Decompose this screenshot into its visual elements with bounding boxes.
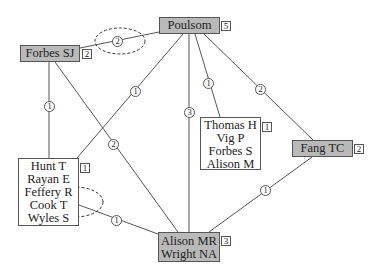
edge-weight-poulsom-hunt: 1 (130, 86, 141, 97)
edge-weight-forbes-alison: 2 (108, 139, 119, 150)
node-fang-tc[interactable]: Fang TC (292, 140, 353, 157)
edge-weight-fang-alison: 1 (260, 185, 271, 196)
count-badge-alison-wright: 3 (221, 236, 231, 246)
edge-weight-poulsom-alison: 3 (184, 107, 195, 118)
edge-weight-poulsom-thomas: 1 (203, 78, 214, 89)
node-label: Fang TC (293, 142, 352, 155)
count-badge-poulsom: 5 (221, 21, 231, 31)
count-badge-thomas-group: 1 (262, 122, 272, 132)
node-label: Wright NA (159, 248, 219, 261)
node-label: Forbes SJ (21, 47, 79, 60)
node-label: Alison M (201, 158, 260, 171)
node-label: Wyles S (19, 212, 78, 225)
edge-weight-forbes-poulsom: 2 (112, 36, 123, 47)
edge-weight-poulsom-fang: 2 (255, 84, 266, 95)
node-hunt-group[interactable]: Hunt T Rayan E Feffery R Cook T Wyles S (18, 158, 79, 226)
edge-weight-hunt-alison: 1 (111, 215, 122, 226)
count-badge-fang-tc: 2 (354, 144, 364, 154)
node-thomas-group[interactable]: Thomas H Vig P Forbes S Alison M (200, 117, 261, 170)
node-forbes-sj[interactable]: Forbes SJ (20, 45, 80, 62)
count-badge-forbes-sj: 2 (82, 49, 92, 59)
count-badge-hunt-group: 1 (80, 163, 90, 173)
node-alison-wright[interactable]: Alison MR Wright NA (158, 232, 220, 262)
edge-weight-forbes-hunt: 1 (44, 101, 55, 112)
node-label: Poulsom (160, 19, 219, 32)
node-poulsom[interactable]: Poulsom (159, 17, 220, 34)
